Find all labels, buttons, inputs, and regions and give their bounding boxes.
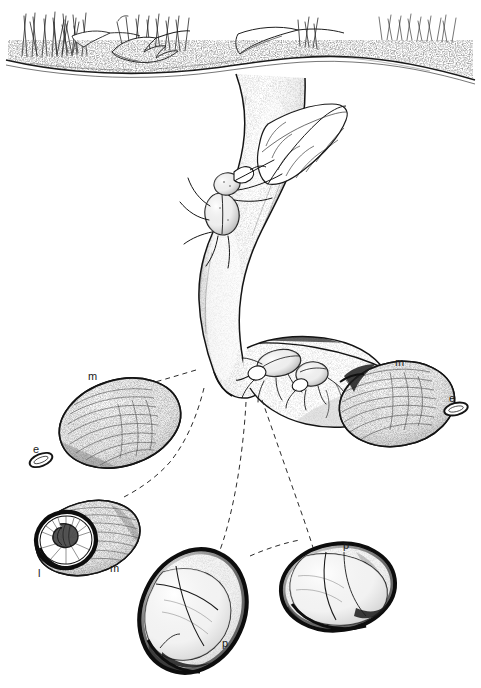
larva-in-mass-inset (27, 489, 150, 587)
grass-tuft-farright (379, 14, 456, 42)
pupa-inset-upper (277, 538, 400, 637)
egg-inset-left (28, 450, 55, 470)
leader-chamber-to-pupa-upper (250, 540, 300, 556)
label-m-right: m (395, 357, 404, 368)
label-p-lower: p (222, 638, 228, 649)
label-e-left: e (33, 444, 39, 455)
label-e-right: e (449, 393, 455, 404)
label-m-larva: m (110, 563, 119, 574)
artwork-layer (0, 0, 481, 688)
pupa-inset-lower (122, 534, 264, 688)
label-l-larva: l (38, 568, 41, 579)
label-m-left: m (88, 371, 97, 382)
brood-mass-inset-left (48, 364, 195, 482)
illustration-plate: m e l m m e p p (0, 0, 481, 688)
label-p-upper: p (343, 540, 349, 551)
